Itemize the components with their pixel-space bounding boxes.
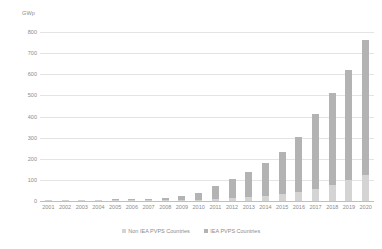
bar-group [212, 186, 219, 201]
x-axis-tick-label: 2015 [276, 204, 288, 210]
y-axis-tick-label: 100 [0, 177, 37, 183]
bar-group [345, 70, 352, 201]
x-axis-tick-label: 2007 [142, 204, 154, 210]
x-axis-tick-label: 2001 [42, 204, 54, 210]
bar-segment-iea-pvps [245, 172, 252, 198]
bar-group [195, 193, 202, 201]
bar-segment-iea-pvps [295, 137, 302, 193]
bar-group [329, 93, 336, 201]
legend-item[interactable]: IEA PVPS Countries [204, 228, 260, 234]
y-axis-tick-label: 400 [0, 114, 37, 120]
bar-group [295, 137, 302, 201]
chart-legend: Non IEA PVPS CountriesIEA PVPS Countries [0, 228, 382, 234]
x-axis-tick-label: 2018 [326, 204, 338, 210]
x-axis-tick-label: 2006 [126, 204, 138, 210]
bar-segment-iea-pvps [229, 179, 236, 198]
stacked-bar-chart: GWp 0100200300400500600700800 2001200220… [0, 0, 382, 249]
x-axis-tick-label: 2011 [209, 204, 221, 210]
x-axis-tick-label: 2005 [109, 204, 121, 210]
legend-label: Non IEA PVPS Countries [128, 228, 189, 234]
x-axis-tick-labels: 2001200220032004200520062007200820092010… [40, 204, 374, 218]
y-axis-tick-label: 0 [0, 198, 37, 204]
x-axis-tick-label: 2014 [259, 204, 271, 210]
bar-segment-iea-pvps [362, 40, 369, 174]
bar-group [312, 114, 319, 201]
legend-item[interactable]: Non IEA PVPS Countries [122, 228, 190, 234]
y-axis-unit-label: GWp [22, 10, 35, 16]
bar-segment-non-iea-pvps [295, 192, 302, 201]
y-axis-tick-label: 600 [0, 71, 37, 77]
bar-segment-iea-pvps [329, 93, 336, 185]
x-axis-tick-label: 2016 [293, 204, 305, 210]
legend-swatch-icon [204, 229, 208, 233]
y-axis-tick-label: 700 [0, 50, 37, 56]
bar-group [262, 163, 269, 201]
x-axis-tick-label: 2009 [176, 204, 188, 210]
x-axis-tick-label: 2010 [193, 204, 205, 210]
bar-segment-iea-pvps [279, 152, 286, 194]
bar-group [279, 152, 286, 201]
x-axis-tick-label: 2020 [360, 204, 372, 210]
bar-group [362, 40, 369, 201]
x-axis-tick-label: 2004 [92, 204, 104, 210]
bar-segment-iea-pvps [262, 163, 269, 196]
bar-group [229, 179, 236, 201]
bar-segment-non-iea-pvps [329, 185, 336, 201]
y-axis-tick-label: 500 [0, 92, 37, 98]
y-axis-tick-label: 200 [0, 156, 37, 162]
x-axis-tick-label: 2013 [243, 204, 255, 210]
bar-segment-iea-pvps [195, 193, 202, 200]
legend-swatch-icon [122, 229, 126, 233]
bar-segment-non-iea-pvps [312, 189, 319, 201]
bar-segment-iea-pvps [345, 70, 352, 180]
bar-segment-non-iea-pvps [279, 194, 286, 201]
x-axis-tick-label: 2002 [59, 204, 71, 210]
y-axis-tick-label: 800 [0, 29, 37, 35]
plot-area [40, 32, 374, 202]
bar-segment-non-iea-pvps [362, 175, 369, 201]
x-axis-tick-label: 2012 [226, 204, 238, 210]
x-axis-tick-label: 2008 [159, 204, 171, 210]
x-axis-line [40, 201, 374, 202]
legend-label: IEA PVPS Countries [210, 228, 260, 234]
bar-group [245, 172, 252, 201]
bar-segment-iea-pvps [212, 186, 219, 200]
x-axis-tick-label: 2017 [309, 204, 321, 210]
bars-layer [40, 32, 374, 202]
bar-segment-non-iea-pvps [345, 180, 352, 201]
bar-segment-iea-pvps [312, 114, 319, 188]
x-axis-tick-label: 2019 [343, 204, 355, 210]
x-axis-tick-label: 2003 [76, 204, 88, 210]
y-axis-tick-label: 300 [0, 135, 37, 141]
